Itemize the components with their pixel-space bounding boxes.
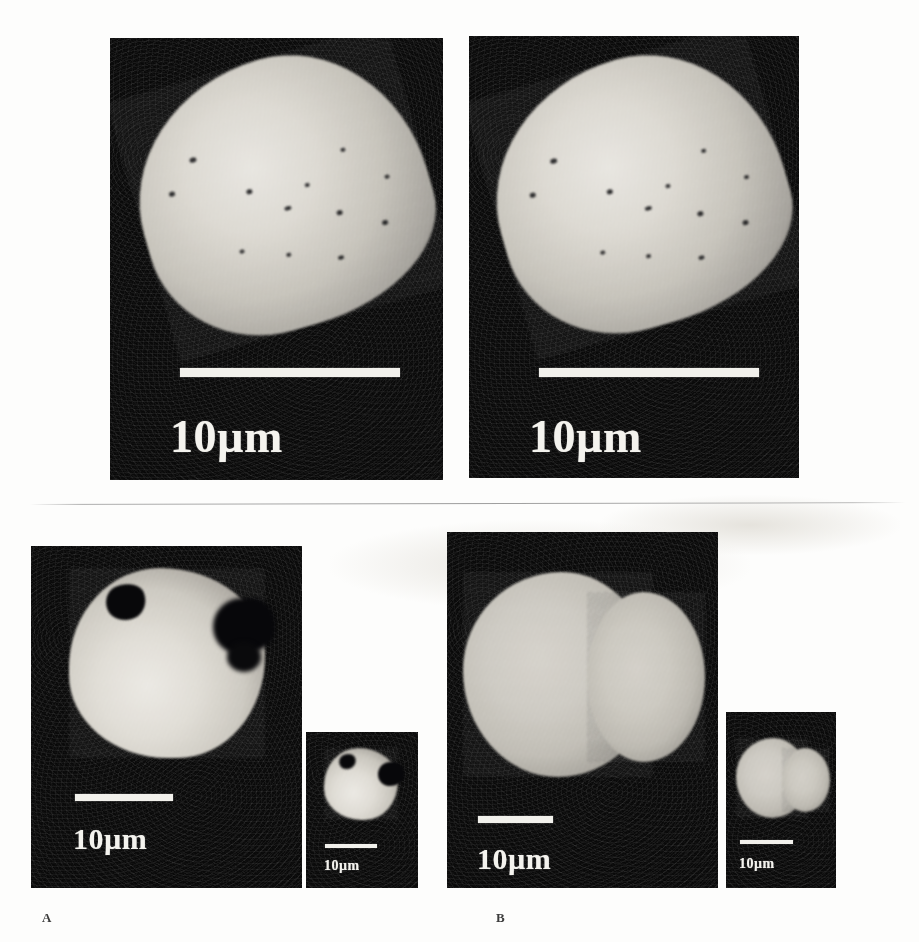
surface-speck <box>239 249 245 254</box>
part-label-b: B <box>496 910 505 926</box>
scale-bar-label: 10µm <box>477 842 551 876</box>
surface-speck <box>337 254 344 259</box>
particle-right-cleft <box>378 762 404 786</box>
surface-speck <box>700 148 706 153</box>
particle-texture <box>469 36 799 361</box>
surface-speck <box>246 188 253 194</box>
part-label-a: A <box>42 910 51 926</box>
surface-speck <box>285 253 291 258</box>
particle-top-left <box>110 38 443 363</box>
surface-speck <box>529 192 536 198</box>
surface-speck <box>698 255 705 260</box>
surface-speck <box>742 220 749 226</box>
surface-speck <box>600 250 606 255</box>
surface-speck <box>644 206 652 212</box>
micrograph-panel-b-main: 10µm <box>447 532 718 888</box>
particle-panel-b-second-lobe <box>587 592 705 762</box>
particle-texture <box>110 38 443 363</box>
scale-bar-label: 10µm <box>529 410 642 463</box>
scale-bar-label: 10µm <box>170 410 283 463</box>
particle-right-cleft-lower <box>227 642 261 672</box>
surface-speck <box>697 210 704 216</box>
surface-speck <box>168 191 175 197</box>
particle-top-right <box>469 36 799 361</box>
surface-speck <box>646 253 652 258</box>
scale-bar <box>325 844 377 848</box>
surface-speck <box>665 183 671 188</box>
micrograph-top-left: 10µm <box>110 38 443 480</box>
surface-speck <box>189 156 197 163</box>
particle-panel-b-inset-second-lobe <box>782 748 830 812</box>
micrograph-top-right: 10µm <box>469 36 799 478</box>
scale-bar <box>478 816 553 823</box>
scale-bar-label: 10µm <box>739 856 775 872</box>
particle-texture <box>587 592 705 762</box>
scale-bar <box>180 368 400 377</box>
particle-texture <box>782 748 830 812</box>
surface-speck <box>744 175 750 180</box>
surface-speck <box>384 174 390 179</box>
micrograph-panel-a-main: 10µm <box>31 546 302 888</box>
scale-bar-label: 10µm <box>73 822 147 856</box>
surface-speck <box>340 147 346 152</box>
surface-speck <box>606 189 613 195</box>
figure-plate: 10µm 10µm <box>0 0 919 942</box>
micrograph-panel-b-inset: 10µm <box>726 712 836 888</box>
scan-divider-line <box>30 502 905 505</box>
surface-speck <box>337 210 344 216</box>
surface-speck <box>305 183 311 188</box>
surface-speck <box>284 205 292 211</box>
scale-bar <box>740 840 793 844</box>
scale-bar <box>75 794 173 801</box>
scale-bar <box>539 368 759 377</box>
surface-speck <box>549 158 557 165</box>
micrograph-panel-a-inset: 10µm <box>306 732 418 888</box>
surface-speck <box>382 219 389 225</box>
scale-bar-label: 10µm <box>324 858 360 874</box>
